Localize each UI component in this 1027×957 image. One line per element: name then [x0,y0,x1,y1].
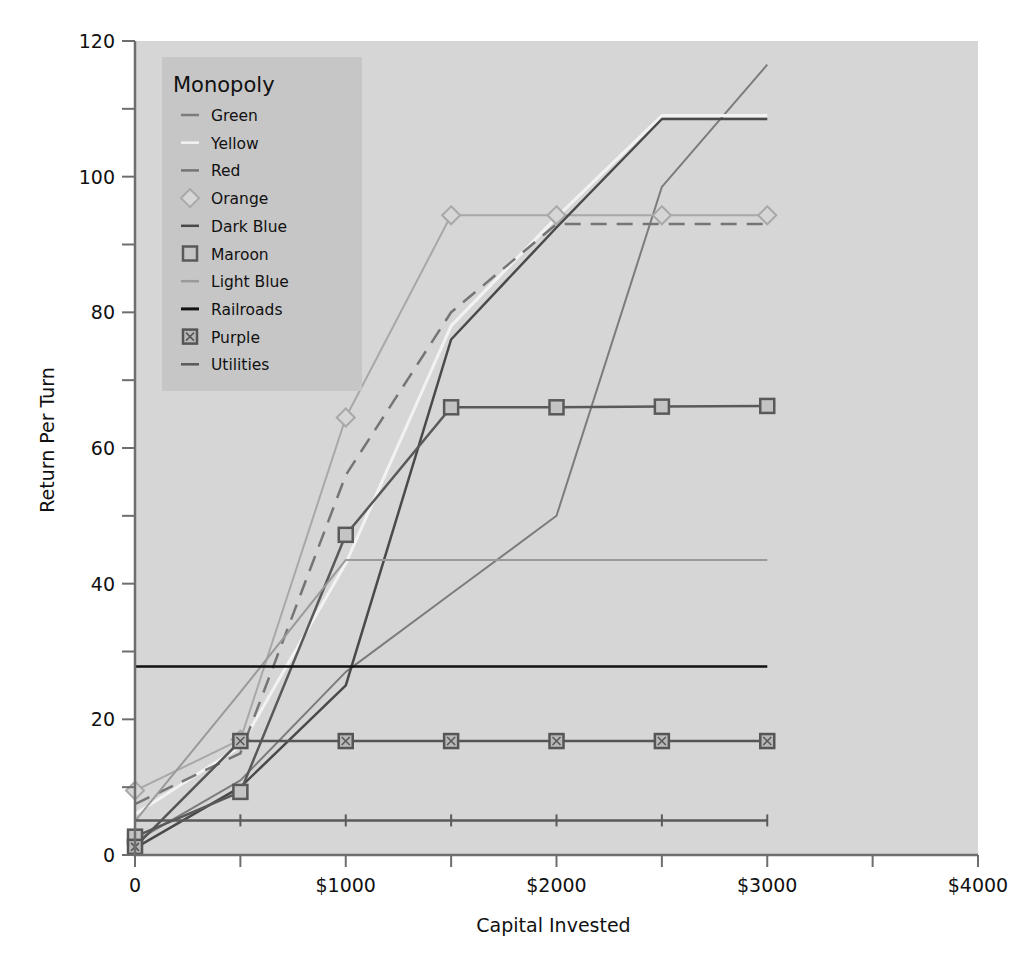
y-tick-label: 40 [91,573,115,595]
y-tick-label: 120 [79,30,115,52]
legend-label: Yellow [210,135,259,153]
chart-canvas: 0204060801001200$1000$2000$3000$4000 Mon… [0,0,1027,957]
x-tick-label: $3000 [737,874,797,896]
y-tick-label: 100 [79,166,115,188]
square-marker [550,400,564,414]
x-tick-label: $2000 [526,874,586,896]
x-tick-label: $4000 [948,874,1008,896]
y-tick-label: 80 [91,301,115,323]
legend-label: Light Blue [211,273,289,291]
x-tick-label: 0 [129,874,141,896]
legend-label: Green [211,107,258,125]
y-tick-label: 20 [91,708,115,730]
x-tick-label: $1000 [316,874,376,896]
legend-item-purple: Purple [183,329,260,347]
legend-label: Maroon [211,246,269,264]
square-marker [655,400,669,414]
legend-title: Monopoly [173,73,275,97]
square-marker [183,247,197,261]
legend-item-maroon: Maroon [183,246,269,264]
legend: MonopolyGreenYellowRedOrangeDark BlueMar… [162,57,362,391]
x-axis-title: Capital Invested [476,914,630,936]
square-marker [339,528,353,542]
legend-label: Purple [211,329,260,347]
square-marker [444,400,458,414]
legend-label: Dark Blue [211,218,287,236]
line-chart: 0204060801001200$1000$2000$3000$4000 Mon… [0,0,1027,957]
legend-label: Railroads [211,301,282,319]
y-tick-label: 60 [91,437,115,459]
legend-label: Red [211,162,240,180]
square-marker [233,785,247,799]
y-axis-title: Return Per Turn [36,367,58,513]
legend-label: Orange [211,190,268,208]
square-marker [760,399,774,413]
y-tick-label: 0 [103,844,115,866]
legend-label: Utilities [211,356,269,374]
